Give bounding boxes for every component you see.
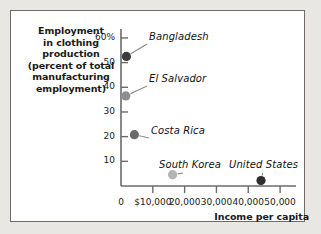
y-tick-label: 40 [75,81,115,91]
data-point-el-salvador [121,91,130,100]
chart-figure: Employment in clothing production (perce… [0,0,321,234]
x-tick-label: 50,000 [253,197,307,207]
y-tick-label: 50 [75,57,115,67]
scatter-plot [11,11,306,223]
leader-line [139,136,149,138]
x-axis-ticks [153,186,280,193]
leader-lines [130,44,262,176]
point-label-south-korea: South Korea [159,159,221,170]
point-label-bangladesh: Bangladesh [149,31,209,42]
data-point-south-korea [168,170,177,179]
x-axis-title: Income per capita [197,211,309,223]
leader-line [130,86,147,94]
data-point-united-states [256,176,265,185]
chart-frame: Employment in clothing production (perce… [10,10,305,222]
point-label-costa-rica: Costa Rica [151,125,205,136]
leader-line [178,173,183,174]
y-tick-label: 30 [75,106,115,116]
data-point-costa-rica [130,130,139,139]
y-tick-label: 10 [75,155,115,165]
point-label-el-salvador: El Salvador [149,73,206,84]
leader-line [131,44,147,54]
leader-line [262,173,263,176]
y-tick-label: 60% [75,32,115,42]
data-point-bangladesh [122,52,131,61]
y-tick-label: 20 [75,131,115,141]
point-label-united-states: United States [229,159,298,170]
